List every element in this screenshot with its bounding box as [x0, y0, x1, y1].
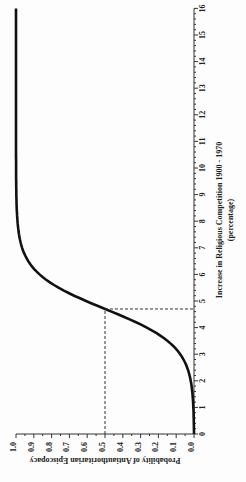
x-axis-label: Increase in Religious Competition 1900 -…: [215, 142, 224, 298]
tick-label: 9: [198, 193, 207, 197]
y-axis-label: Probability of Antiauthoritarian Episcop…: [30, 456, 181, 465]
tick-label: 2: [198, 379, 207, 383]
tick-label: 7: [198, 246, 207, 250]
tick-label: 13: [198, 84, 207, 92]
tick-label: 4: [198, 326, 207, 330]
tick-label: 0.4: [116, 442, 125, 452]
logistic-chart: 0123456789101112131415160.00.10.20.30.40…: [0, 0, 246, 482]
tick-label: 0.3: [134, 442, 143, 452]
tick-label: 1.0: [9, 442, 18, 452]
tick-label: 0.0: [187, 442, 196, 452]
tick-label: 0.5: [98, 442, 107, 452]
tick-label: 1: [198, 405, 207, 409]
axes: [16, 8, 194, 434]
tick-label: 5: [198, 299, 207, 303]
tick-label: 11: [198, 138, 207, 146]
tick-label: 14: [198, 58, 207, 66]
tick-label: 0: [198, 432, 207, 436]
tick-label: 10: [198, 164, 207, 172]
tick-label: 6: [198, 272, 207, 276]
ticks: 0123456789101112131415160.00.10.20.30.40…: [9, 4, 207, 452]
x-axis-label-unit: (percentage): [226, 198, 235, 241]
tick-label: 15: [198, 31, 207, 39]
tick-label: 16: [198, 4, 207, 12]
tick-label: 0.7: [62, 442, 71, 452]
probability-curve: [16, 8, 194, 434]
tick-label: 3: [198, 352, 207, 356]
tick-label: 0.9: [27, 442, 36, 452]
tick-label: 0.1: [169, 442, 178, 452]
tick-label: 12: [198, 111, 207, 119]
tick-label: 0.2: [151, 442, 160, 452]
tick-label: 0.6: [80, 442, 89, 452]
tick-label: 0.8: [45, 442, 54, 452]
tick-label: 8: [198, 219, 207, 223]
